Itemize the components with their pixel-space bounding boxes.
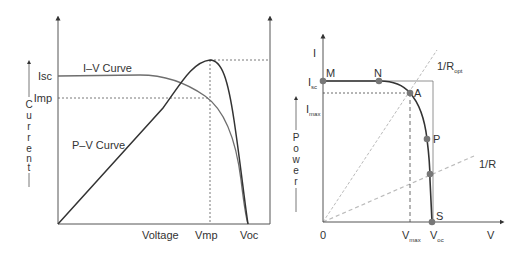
iv-curve-right — [323, 81, 432, 222]
left-figure: Isc Imp I–V Curve P–V Curve Voltage Vmp … — [25, 18, 300, 241]
imax-label: Imax — [306, 103, 320, 117]
diagram-canvas: Isc Imp I–V Curve P–V Curve Voltage Vmp … — [0, 0, 514, 254]
voc-label-right: Voc — [430, 229, 444, 243]
point-p-label: P — [433, 133, 440, 145]
point-r-intersection — [427, 171, 434, 178]
svg-text:r: r — [27, 121, 31, 132]
svg-text:e: e — [293, 165, 299, 176]
pv-curve-label: P–V Curve — [72, 139, 125, 151]
origin-label: 0 — [320, 229, 326, 241]
svg-text:r: r — [294, 176, 298, 187]
voc-label: Voc — [240, 229, 259, 241]
power-axis-label: P o w e r — [291, 98, 300, 212]
right-figure: I V 0 M N A P S Isc Imax Vmax Voc 1/Ropt… — [306, 36, 502, 243]
point-m-label: M — [326, 67, 335, 79]
svg-text:u: u — [26, 110, 32, 121]
svg-text:w: w — [291, 154, 300, 165]
point-s — [429, 219, 436, 226]
vmp-label: Vmp — [195, 229, 218, 241]
point-p — [424, 136, 431, 143]
point-a-label: A — [414, 87, 422, 99]
r-load-line — [323, 156, 474, 222]
vmax-label: Vmax — [402, 229, 421, 243]
isc-label: Isc — [38, 70, 53, 82]
voltage-label: Voltage — [142, 229, 179, 241]
svg-text:C: C — [25, 99, 32, 110]
imp-label: Imp — [34, 92, 52, 104]
isc-label-right: Isc — [308, 76, 317, 90]
point-n-label: N — [374, 67, 382, 79]
right-x-axis-label: V — [487, 229, 495, 241]
point-s-label: S — [436, 210, 443, 222]
right-y-axis-label: I — [313, 47, 316, 59]
point-a — [407, 90, 414, 97]
svg-text:o: o — [293, 143, 299, 154]
svg-text:P: P — [293, 132, 300, 143]
current-axis-label: C u r r e n t — [25, 62, 32, 187]
svg-text:r: r — [27, 132, 31, 143]
iv-curve-label: I–V Curve — [83, 62, 132, 74]
ropt-label: 1/Ropt — [437, 60, 463, 74]
r-label: 1/R — [479, 158, 496, 170]
svg-text:t: t — [28, 162, 31, 173]
